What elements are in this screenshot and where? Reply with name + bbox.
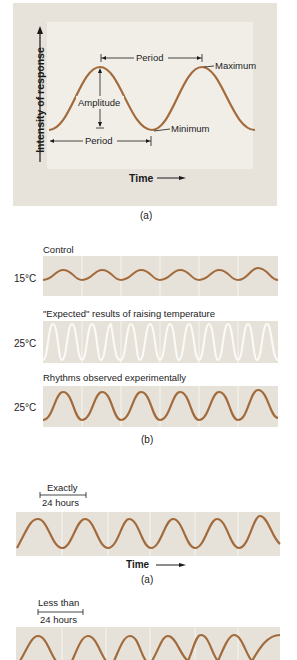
scale-bar: [40, 492, 86, 498]
panel-d: Less than 24 hours: [0, 595, 297, 660]
y-axis-label: Intensity of response: [34, 47, 46, 153]
panel-b-caption: (b): [141, 434, 153, 445]
rhythm-strips: [0, 240, 297, 450]
arrow-right-icon: [179, 563, 186, 567]
strip-expected: [43, 321, 278, 363]
period-top-label: Period: [136, 52, 163, 63]
panel-c-caption: (a): [141, 574, 153, 585]
strip-observed: [43, 386, 278, 427]
panel-a-caption: (a): [140, 210, 152, 221]
period-bottom-label: Period: [85, 135, 112, 146]
maximum-label: Maximum: [215, 60, 256, 71]
scale-bar-d: [38, 609, 83, 615]
strip-control: [43, 256, 278, 296]
rhythm-strip-exact: [0, 470, 297, 590]
amplitude-label: Amplitude: [78, 97, 120, 108]
rhythm-strip-less: [0, 595, 297, 660]
minimum-label: Minimum: [171, 123, 210, 134]
x-axis-label-c: Time: [126, 559, 149, 570]
plot-area: [47, 22, 253, 169]
panel-c: Exactly 24 hours Time (a): [0, 470, 297, 590]
panel-a: Intensity of response Period Maximum Amp…: [0, 0, 297, 225]
panel-b: Control 15°C "Expected" results of raisi…: [0, 240, 297, 450]
x-axis-label: Time: [129, 172, 153, 184]
